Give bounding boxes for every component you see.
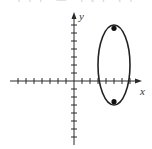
focus-bottom-dot — [111, 99, 116, 104]
y-axis: y — [71, 10, 84, 145]
focus-points — [111, 26, 116, 104]
y-axis-label: y — [78, 10, 84, 22]
ellipse-plot: x y — [0, 0, 152, 149]
focus-top-dot — [111, 26, 116, 31]
ellipse-curve — [98, 25, 130, 105]
x-axis-arrow-icon — [135, 79, 142, 84]
y-axis-arrow-icon — [72, 12, 77, 19]
x-axis-label: x — [139, 85, 145, 97]
